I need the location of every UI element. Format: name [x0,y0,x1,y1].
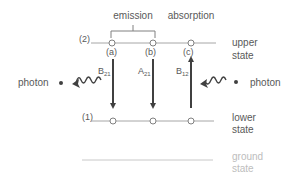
lower-level-node-a [110,118,116,124]
upper-level-node-a [109,40,115,46]
emission-label: emission [113,10,152,21]
transition-c-tag: (c) [183,47,194,57]
coef-b12: B12 [176,66,189,77]
upper-level-node-b [150,40,156,46]
upper-state-label-line2: state [232,50,254,61]
photon-left-dot [59,81,63,85]
coef-b21: B21 [98,66,111,77]
coef-a21: A21 [138,66,151,77]
absorption-label: absorption [168,10,215,21]
transition-a-tag: (a) [106,47,117,57]
photon-right-wave-icon [204,77,226,84]
lower-level-node-b [150,118,156,124]
photon-right-dot [234,80,238,84]
lower-state-label-line2: state [232,124,254,135]
lower-level-node-c [188,118,194,124]
emission-bracket [111,25,155,38]
photon-left-wave-icon [76,77,101,83]
photon-right-label: photon [250,77,281,88]
upper-level-number: (2) [79,34,90,44]
einstein-coefficients-diagram: emission absorption (2) upper state (a) … [0,0,289,181]
ground-state-label-line1: ground [232,151,263,162]
upper-level-node-c [188,40,194,46]
ground-state-label-line2: state [232,163,254,174]
upper-state-label-line1: upper [232,37,258,48]
photon-left-label: photon [18,77,49,88]
transition-b-tag: (b) [145,47,156,57]
photon-left-arrowhead [72,79,80,88]
lower-state-label-line1: lower [232,112,257,123]
